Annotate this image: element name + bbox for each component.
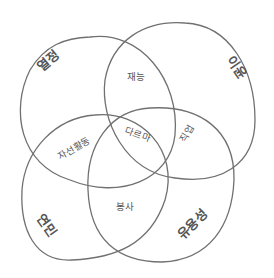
venn-diagram: 열정 이윤 연민 유용성 재능 자선활동 다르마 직업 봉사 [0,0,274,278]
label-charity: 자선활동 [56,134,93,162]
label-vocation: 직업 [177,123,196,144]
label-center: 다르마 [123,125,152,145]
circle-profit [104,23,255,180]
label-profit: 이윤 [224,53,250,81]
label-love: 연민 [34,211,60,239]
circle-usefulness [88,108,234,262]
label-talent: 재능 [127,71,145,82]
label-passion: 열정 [34,47,62,74]
label-usefulness: 유용성 [175,206,211,242]
label-service: 봉사 [116,201,134,212]
